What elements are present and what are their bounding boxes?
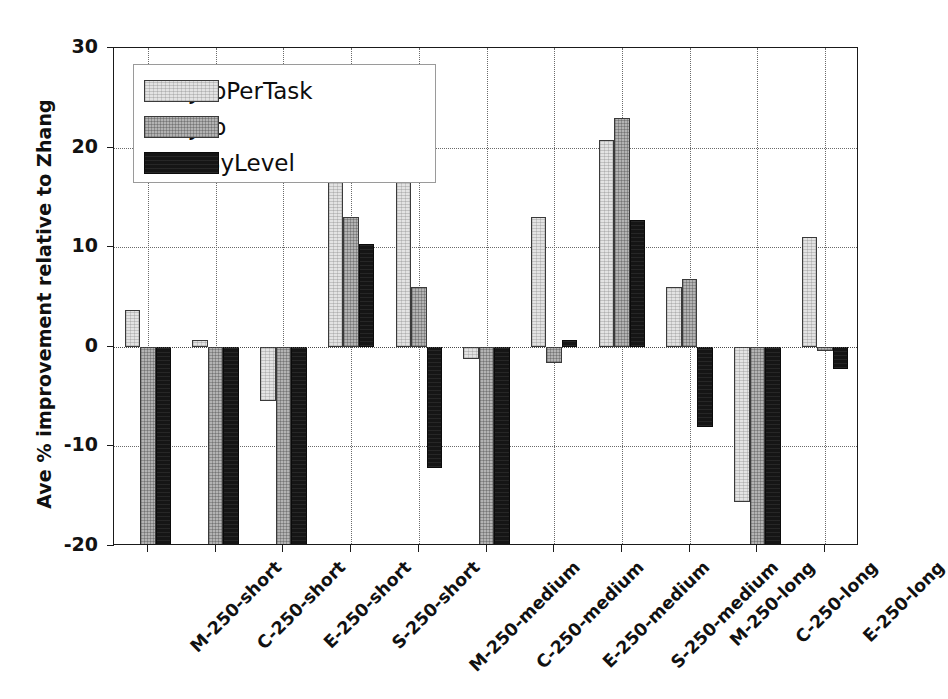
bar-S-250-short-OneJob — [343, 217, 359, 346]
y-tick-label: 10 — [38, 234, 98, 256]
x-tick-label-C-250-medium: C-250-medium — [532, 557, 648, 673]
x-tick-mark — [282, 545, 283, 552]
bar-C-250-short-OneJob — [208, 347, 224, 545]
x-tick-mark — [486, 545, 487, 552]
bar-M-250-medium-OneJobPerTask — [396, 177, 412, 346]
y-tick-label: 30 — [38, 35, 98, 57]
bar-M-250-long-OneJob — [682, 279, 698, 347]
bar-C-250-long-OneJobPerTask — [734, 347, 750, 502]
bar-E-250-long-LevelByLevel — [833, 347, 849, 369]
bar-E-250-medium-LevelByLevel — [562, 340, 578, 347]
bar-M-250-long-LevelByLevel — [697, 347, 713, 428]
x-tick-mark — [147, 545, 148, 552]
bar-M-250-medium-OneJob — [411, 287, 427, 347]
y-tick-label: -20 — [38, 533, 98, 555]
bar-S-250-medium-LevelByLevel — [630, 220, 646, 346]
bar-E-250-short-LevelByLevel — [291, 347, 307, 545]
x-tick-mark — [553, 545, 554, 552]
legend-swatch-LevelByLevel — [144, 152, 219, 174]
x-tick-label-M-250-medium: M-250-medium — [465, 557, 584, 676]
x-tick-mark — [689, 545, 690, 552]
y-tick-label: -10 — [38, 433, 98, 455]
bar-E-250-medium-OneJobPerTask — [531, 217, 547, 346]
bar-E-250-long-OneJob — [817, 347, 833, 351]
bar-E-250-short-OneJobPerTask — [260, 347, 276, 401]
bar-S-250-medium-OneJobPerTask — [599, 140, 615, 347]
bar-C-250-short-LevelByLevel — [223, 347, 239, 545]
bar-E-250-short-OneJob — [276, 347, 292, 545]
plot-area: OneJobPerTaskOneJobLevelByLevel — [113, 47, 858, 545]
bar-C-250-medium-OneJob — [479, 347, 495, 545]
legend-item-OneJobPerTask: OneJobPerTask — [144, 73, 435, 109]
bar-C-250-medium-OneJobPerTask — [463, 347, 479, 359]
x-tick-mark — [215, 545, 216, 552]
bar-M-250-short-LevelByLevel — [156, 347, 172, 545]
bar-C-250-medium-LevelByLevel — [494, 347, 510, 545]
y-tick-label: 20 — [38, 135, 98, 157]
vertical-gridline-10 — [825, 48, 826, 544]
y-tick-mark — [107, 545, 114, 546]
x-tick-mark — [418, 545, 419, 552]
bar-M-250-short-OneJobPerTask — [125, 310, 141, 347]
y-tick-label: 0 — [38, 334, 98, 356]
legend: OneJobPerTaskOneJobLevelByLevel — [133, 64, 436, 183]
legend-swatch-OneJobPerTask — [144, 80, 219, 102]
legend-swatch-OneJob — [144, 116, 219, 138]
x-tick-mark — [621, 545, 622, 552]
bar-E-250-long-OneJobPerTask — [802, 237, 818, 347]
x-tick-mark — [350, 545, 351, 552]
gridline-10 — [114, 247, 857, 248]
x-tick-mark — [756, 545, 757, 552]
bar-C-250-long-LevelByLevel — [765, 347, 781, 545]
legend-item-LevelByLevel: LevelByLevel — [144, 145, 435, 181]
bar-S-250-medium-OneJob — [614, 118, 630, 347]
bar-C-250-long-OneJob — [750, 347, 766, 545]
bar-M-250-medium-LevelByLevel — [427, 347, 443, 469]
bar-M-250-short-OneJob — [140, 347, 156, 545]
bar-S-250-short-LevelByLevel — [359, 244, 375, 347]
legend-item-OneJob: OneJob — [144, 109, 435, 145]
bar-E-250-medium-OneJob — [546, 347, 562, 363]
bar-M-250-long-OneJobPerTask — [666, 287, 682, 347]
bar-C-250-short-OneJobPerTask — [192, 340, 208, 347]
x-tick-mark — [824, 545, 825, 552]
vertical-gridline-6 — [554, 48, 555, 544]
